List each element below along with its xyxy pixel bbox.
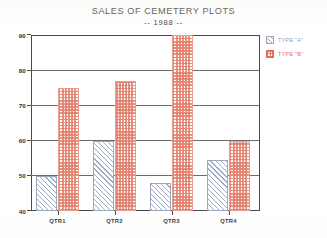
- y-axis-tick-label: 60: [0, 137, 26, 144]
- bar-qtr2-series-b: [115, 81, 136, 211]
- bar-qtr3-series-b: [172, 35, 193, 211]
- chart-container: SALES OF CEMETERY PLOTS -- 1988 -- 40506…: [0, 0, 327, 238]
- y-axis-tick-label: 40: [0, 208, 26, 215]
- gridline: [31, 70, 259, 71]
- x-axis-tick-label: QTR2: [100, 218, 130, 224]
- y-axis-tick-mark: [27, 210, 31, 211]
- x-axis-tick-label: QTR4: [214, 218, 244, 224]
- y-axis-tick-label: 50: [0, 172, 26, 179]
- legend: TYPE "A" TYPE "B": [266, 33, 325, 63]
- y-axis-tick-mark: [27, 105, 31, 106]
- y-axis-tick-mark: [27, 140, 31, 141]
- x-axis-tick-label: QTR3: [157, 218, 187, 224]
- legend-label-type-a: TYPE "A": [278, 37, 303, 43]
- bar-qtr1-series-b: [58, 88, 79, 211]
- legend-swatch-type-b-icon: [266, 50, 274, 58]
- legend-item-type-a[interactable]: TYPE "A": [266, 35, 303, 44]
- x-axis-tick-mark: [229, 211, 230, 215]
- title-block: SALES OF CEMETERY PLOTS -- 1988 --: [0, 6, 327, 28]
- legend-item-type-b[interactable]: TYPE "B": [266, 49, 303, 58]
- y-axis-tick-label: 80: [0, 67, 26, 74]
- legend-label-type-b: TYPE "B": [278, 51, 303, 57]
- x-axis-tick-mark: [58, 211, 59, 215]
- chart-title: SALES OF CEMETERY PLOTS: [0, 6, 327, 17]
- plot-frame-top: [31, 35, 259, 36]
- bar-qtr3-series-a: [150, 183, 171, 211]
- bar-qtr4-series-a: [207, 160, 228, 211]
- legend-swatch-type-a-icon: [266, 36, 274, 44]
- bar-qtr1-series-a: [36, 176, 57, 211]
- plot-frame-right: [259, 35, 260, 211]
- y-axis-tick-mark: [27, 70, 31, 71]
- x-axis-tick-label: QTR1: [43, 218, 73, 224]
- bar-qtr4-series-b: [229, 141, 250, 211]
- x-axis-tick-mark: [115, 211, 116, 215]
- chart-subtitle: -- 1988 --: [0, 18, 327, 28]
- y-axis-tick-label: 70: [0, 102, 26, 109]
- y-axis-tick-mark: [27, 34, 31, 35]
- bar-qtr2-series-a: [93, 141, 114, 211]
- x-axis-tick-mark: [172, 211, 173, 215]
- y-axis-tick-label: 90: [0, 32, 26, 39]
- y-axis-tick-mark: [27, 175, 31, 176]
